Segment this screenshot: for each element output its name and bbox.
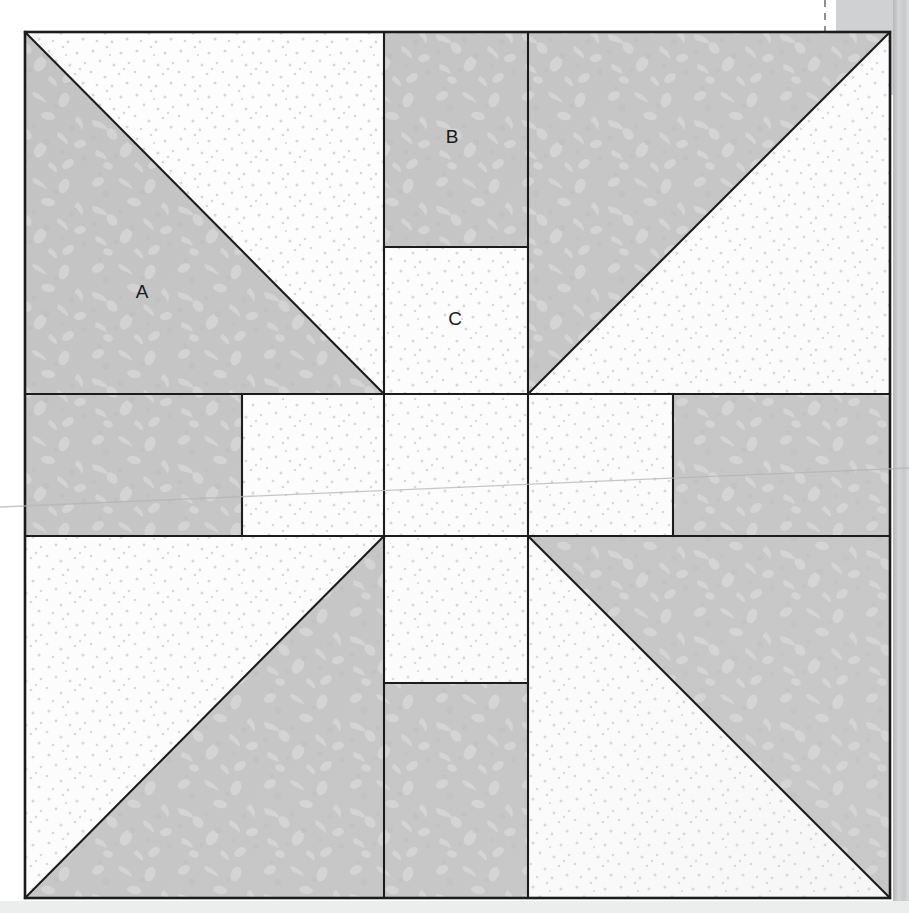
page-edge-right xyxy=(893,0,909,913)
piece-label-c: C xyxy=(448,308,462,329)
quilt-block-diagram: A B C xyxy=(0,0,909,913)
piece-label-b: B xyxy=(446,126,459,147)
quilt-block-canvas: A B C xyxy=(0,0,909,913)
page-bottom-shadow xyxy=(0,901,909,913)
piece-label-a: A xyxy=(136,281,149,302)
